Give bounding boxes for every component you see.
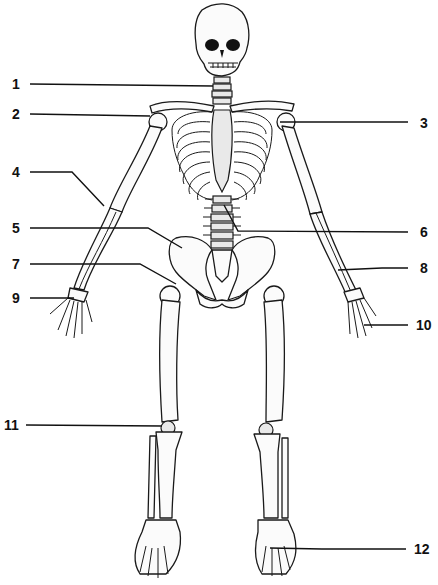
label-12: 12	[414, 542, 430, 556]
leader-11	[26, 425, 162, 426]
skeleton-drawing	[0, 0, 438, 585]
label-11: 11	[4, 418, 19, 432]
skeleton-diagram: 1 2 3 4 5 6 7 8 9 10 11 12	[0, 0, 438, 585]
leader-7	[30, 264, 176, 284]
label-7: 7	[12, 257, 20, 271]
label-6: 6	[420, 225, 428, 239]
label-10: 10	[416, 318, 432, 332]
leader-4	[30, 172, 104, 206]
sternum	[212, 110, 232, 192]
label-8: 8	[420, 261, 428, 275]
label-5: 5	[12, 221, 20, 235]
label-2: 2	[12, 107, 20, 121]
left-arm	[50, 113, 167, 338]
cervical-vertebrae	[212, 77, 232, 104]
right-clavicle	[230, 101, 294, 112]
label-1: 1	[12, 77, 20, 91]
spinal-column	[203, 196, 241, 248]
leader-2	[30, 114, 150, 116]
right-leg	[254, 286, 296, 576]
label-9: 9	[12, 291, 20, 305]
leader-1	[30, 84, 213, 86]
leader-8	[338, 268, 408, 270]
label-4: 4	[12, 165, 20, 179]
leader-12	[270, 548, 406, 549]
left-leg	[135, 286, 182, 578]
skull	[195, 4, 249, 76]
rib-cage	[172, 110, 272, 200]
label-3: 3	[420, 116, 428, 130]
right-arm	[277, 113, 376, 338]
